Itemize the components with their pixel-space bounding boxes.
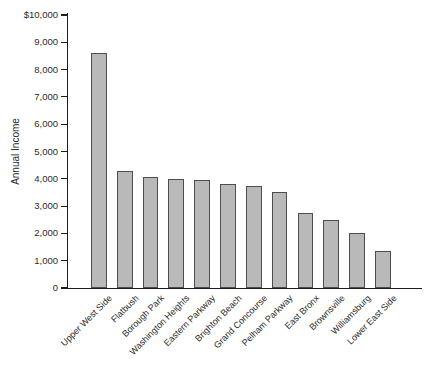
y-tick-mark — [61, 206, 67, 207]
y-tick-label: 9,000 — [0, 36, 58, 48]
y-tick-mark — [61, 69, 67, 70]
bar-east-bronx — [298, 213, 314, 288]
y-tick-label: $10,000 — [0, 9, 58, 21]
bar-williamsburg — [349, 233, 365, 288]
bar-brighton-beach — [220, 184, 236, 288]
y-tick-mark — [61, 260, 67, 261]
bar-flatbush — [117, 171, 133, 288]
y-tick-mark — [61, 14, 67, 15]
y-tick-mark — [61, 233, 67, 234]
bar-brownsville — [323, 220, 339, 288]
bar-lower-east-side — [375, 251, 391, 288]
y-tick-label: 8,000 — [0, 64, 58, 76]
y-tick-label: 1,000 — [0, 255, 58, 267]
y-tick-mark — [61, 42, 67, 43]
bar-chart-figure: Annual Income 01,0002,0003,0004,0005,000… — [0, 0, 431, 379]
y-tick-label: 3,000 — [0, 200, 58, 212]
y-tick-mark — [61, 287, 67, 288]
y-tick-label: 4,000 — [0, 173, 58, 185]
y-tick-mark — [61, 124, 67, 125]
bar-pelham-parkway — [272, 192, 288, 288]
y-tick-label: 7,000 — [0, 91, 58, 103]
y-tick-mark — [61, 151, 67, 152]
y-tick-label: 2,000 — [0, 227, 58, 239]
bar-eastern-parkway — [194, 180, 210, 288]
bar-washington-heights — [168, 179, 184, 288]
bar-upper-west-side — [91, 53, 107, 288]
y-tick-label: 5,000 — [0, 146, 58, 158]
y-tick-mark — [61, 96, 67, 97]
y-tick-mark — [61, 178, 67, 179]
y-tick-label: 0 — [0, 282, 58, 294]
y-tick-label: 6,000 — [0, 118, 58, 130]
x-tick-label: Upper West Side — [59, 293, 114, 348]
y-axis-line — [67, 13, 69, 289]
bar-borough-park — [143, 177, 159, 288]
bar-grand-concourse — [246, 186, 262, 288]
